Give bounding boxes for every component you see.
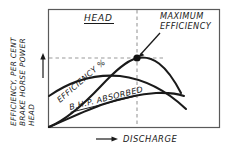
pump-characteristic-curve-figure: MAXIMUM EFFICIENCY HEAD EFFICIENCY % B.H… bbox=[0, 0, 232, 152]
head-curve-label-group: HEAD bbox=[84, 13, 114, 24]
x-axis-label: DISCHARGE bbox=[123, 134, 177, 144]
maximum-efficiency-label-line1: MAXIMUM bbox=[160, 11, 204, 21]
y-axis-label-line3: HEAD bbox=[27, 104, 36, 126]
head-curve-label: HEAD bbox=[84, 13, 113, 23]
maximum-efficiency-label-line2: EFFICIENCY bbox=[160, 21, 212, 31]
y-axis-label-line2: BRAKE HORSE POWER bbox=[18, 38, 27, 126]
y-axis-label-line1: EFFICIENCY, PER CENT bbox=[9, 37, 18, 126]
